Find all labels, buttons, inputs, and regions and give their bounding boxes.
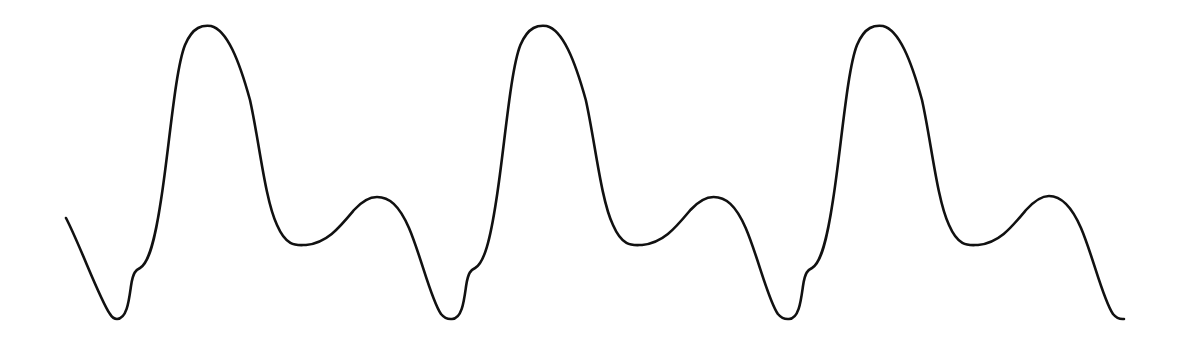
waveform-chart xyxy=(0,0,1180,346)
waveform-line xyxy=(66,26,1124,319)
waveform-plot xyxy=(0,0,1180,346)
